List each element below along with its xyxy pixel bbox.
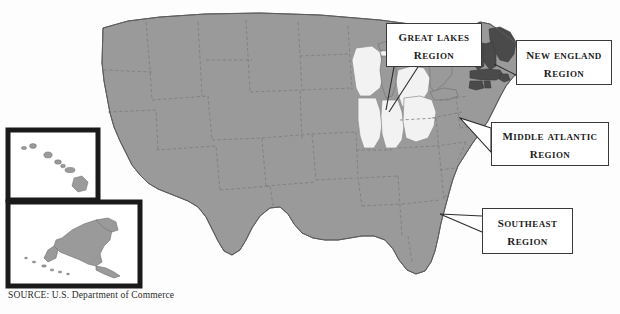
callout-middle-atlantic-line2: Region: [530, 144, 570, 162]
callout-great-lakes-line1: Great Lakes: [399, 27, 470, 45]
alaska-inset: [8, 202, 140, 286]
callout-new-england-line2: Region: [544, 63, 584, 81]
callout-great-lakes: Great Lakes Region: [386, 23, 482, 67]
map-figure: Great Lakes Region New England Region Mi…: [0, 0, 620, 314]
state-illinois: [358, 98, 382, 148]
source-note: SOURCE: U.S. Department of Commerce: [8, 290, 174, 300]
callout-new-england-line1: New England: [526, 45, 602, 63]
state-connecticut: [469, 81, 484, 90]
callout-great-lakes-line2: Region: [414, 45, 454, 63]
state-wisconsin: [352, 46, 384, 96]
hawaii-inset: [8, 130, 98, 200]
callout-southeast: Southeast Region: [482, 208, 573, 254]
callout-southeast-line1: Southeast: [498, 213, 558, 231]
leader-southeast-lower: [440, 214, 482, 232]
callout-new-england: New England Region: [516, 40, 612, 85]
callout-southeast-line2: Region: [507, 231, 547, 249]
callout-middle-atlantic-line1: Middle Atlantic: [503, 126, 598, 144]
state-rhode-island: [484, 81, 491, 88]
leader-southeast-upper: [440, 214, 482, 216]
callout-middle-atlantic: Middle Atlantic Region: [491, 122, 609, 166]
